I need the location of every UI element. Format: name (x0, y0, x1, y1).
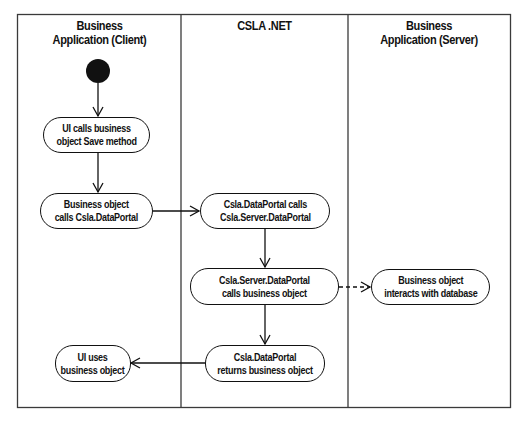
lane-title-csla: CSLA .NET (191, 19, 338, 33)
lane-title-client-line1: Business (28, 19, 171, 33)
activity-node-ui-calls-save: UI calls business object Save method (43, 117, 150, 153)
lane-title-client: Business Application (Client) (28, 19, 171, 47)
lane-title-server: Business Application (Server) (358, 19, 501, 47)
activity-node-dataportal-returns-bo: Csla.DataPortal returns business object (205, 345, 325, 382)
activity-node-label: UI calls business object Save method (56, 122, 136, 148)
lane-title-csla-line1: CSLA .NET (191, 19, 338, 33)
activity-node-label: Csla.DataPortal calls Csla.Server.DataPo… (220, 198, 311, 224)
activity-node-ui-uses-bo: UI uses business object (55, 345, 131, 382)
activity-node-label: UI uses business object (61, 351, 125, 377)
activity-diagram: Business Application (Client) CSLA .NET … (0, 0, 522, 424)
activity-node-dataportal-calls-server: Csla.DataPortal calls Csla.Server.DataPo… (200, 193, 330, 229)
activity-node-server-calls-bo: Csla.Server.DataPortal calls business ob… (190, 268, 339, 305)
activity-node-bo-interacts-database: Business object interacts with database (371, 269, 490, 305)
activity-node-label: Csla.Server.DataPortal calls business ob… (219, 274, 310, 300)
start-node-icon (86, 59, 110, 83)
lane-title-server-line2: Application (Server) (358, 33, 501, 47)
activity-node-label: Business object calls Csla.DataPortal (55, 198, 138, 224)
activity-node-label: Business object interacts with database (384, 274, 477, 300)
activity-node-label: Csla.DataPortal returns business object (217, 351, 312, 377)
activity-node-bo-calls-dataportal: Business object calls Csla.DataPortal (40, 193, 153, 229)
lane-title-client-line2: Application (Client) (28, 33, 171, 47)
lane-title-server-line1: Business (358, 19, 501, 33)
